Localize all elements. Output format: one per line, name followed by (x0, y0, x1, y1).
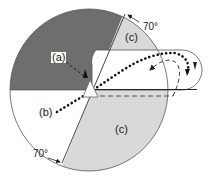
label-c-bottom: (c) (114, 124, 129, 135)
label-b: (b) (38, 107, 53, 118)
label-a: (a) (51, 52, 66, 63)
diagram-canvas (0, 0, 211, 178)
label-c-top: (c) (124, 32, 139, 43)
angle-label-top: 70° (143, 21, 158, 32)
angle-label-bottom: 70° (33, 148, 48, 159)
